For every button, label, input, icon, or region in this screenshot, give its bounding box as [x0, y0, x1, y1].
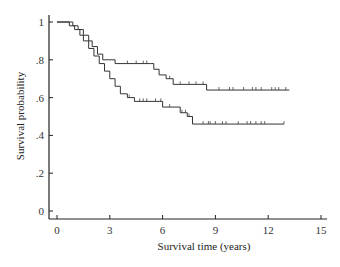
y-tick-label: .8 [36, 54, 45, 66]
survival-chart: 0.2.4.6.8103691215 [0, 0, 340, 267]
x-tick-label: 3 [107, 224, 113, 236]
y-tick-label: 0 [39, 205, 45, 217]
y-tick-label: .6 [36, 92, 45, 104]
survival-curve [57, 22, 284, 124]
x-tick-label: 12 [263, 224, 274, 236]
x-axis-title: Survival time (years) [139, 240, 269, 252]
y-tick-label: .4 [36, 129, 45, 141]
y-axis-title: Survival probability [14, 51, 26, 181]
x-tick-label: 9 [213, 224, 219, 236]
y-tick-label: 1 [39, 16, 45, 28]
x-tick-label: 0 [54, 224, 60, 236]
x-tick-label: 6 [160, 224, 166, 236]
survival-curves [57, 22, 289, 124]
y-tick-label: .2 [36, 167, 44, 179]
axes: 0.2.4.6.8103691215 [36, 15, 327, 236]
x-tick-label: 15 [316, 224, 328, 236]
survival-curve [57, 22, 289, 90]
